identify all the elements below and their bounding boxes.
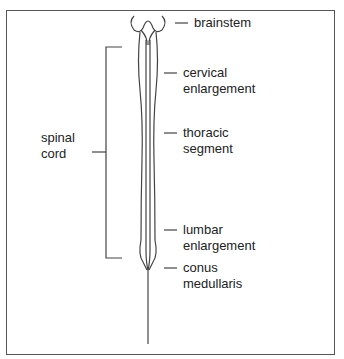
label-brainstem: brainstem [194,15,251,31]
label-lumbar-line1: lumbar [183,222,223,238]
brainstem-right-lobe [153,16,165,32]
label-thoracic-line2: segment [183,141,233,157]
brainstem-left-lobe [131,16,143,32]
spinal-cord-drawing [0,0,344,359]
label-spinal-line2: cord [41,146,66,162]
label-cervical-line2: enlargement [183,81,255,97]
label-thoracic-line1: thoracic [183,125,229,141]
label-conus-line1: conus [183,260,218,276]
label-conus-line2: medullaris [183,276,242,292]
label-cervical-line1: cervical [183,65,227,81]
label-lumbar-line2: enlargement [183,238,255,254]
label-spinal-line1: spinal [41,130,75,146]
